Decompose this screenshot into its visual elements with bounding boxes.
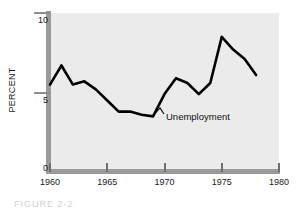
x-axis-tick-label-1960: 1960	[30, 177, 70, 188]
x-tick-mark-1980	[278, 163, 280, 172]
x-axis-tick-label-1980: 1980	[259, 177, 299, 188]
y-tick-mark-5	[34, 92, 50, 94]
x-axis-tick-label-1975: 1975	[202, 177, 242, 188]
series-annotation-label: Unemployment	[166, 111, 230, 122]
y-tick-mark-10	[34, 12, 50, 14]
y-axis-tick-label-10: 10	[18, 15, 48, 25]
plot-area	[50, 13, 279, 172]
x-axis-tick-label-1965: 1965	[87, 177, 127, 188]
figure-caption: FIGURE 2-2	[14, 199, 74, 209]
y-axis-title: PERCENT	[7, 54, 17, 126]
x-tick-mark-1960	[49, 163, 51, 172]
x-tick-mark-1965	[106, 163, 108, 172]
x-tick-mark-1975	[221, 163, 223, 172]
y-axis-tick-label-0: 0	[18, 163, 48, 173]
y-axis-tick-label-5: 5	[18, 95, 48, 105]
figure-container: 10 5 0 PERCENT 19601965197019751980 Unem…	[0, 0, 301, 212]
x-axis-tick-label-1970: 1970	[145, 177, 185, 188]
x-tick-mark-1970	[164, 163, 166, 172]
